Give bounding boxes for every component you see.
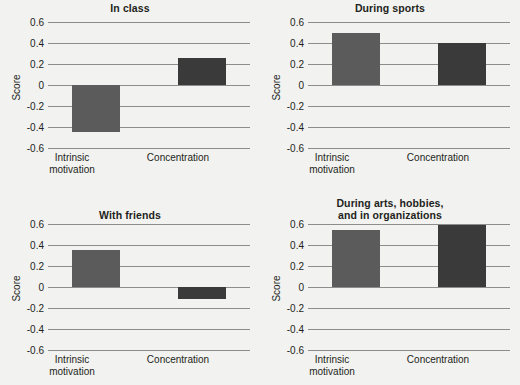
bar-concentration — [438, 225, 486, 287]
y-tick-label: -0.2 — [27, 303, 44, 314]
x-tick-label-intrinsic-motivation: Intrinsic motivation — [26, 152, 118, 176]
plot-area: 0.6 0.4 0.2 0 -0.2 -0.4 -0.6 — [308, 224, 510, 350]
gridline: -0.2 — [48, 308, 250, 309]
panel-title-line1: During arts, hobbies, — [336, 197, 443, 209]
gridline: -0.6 — [48, 350, 250, 351]
gridline: 0.4 — [48, 43, 250, 44]
gridline: -0.2 — [308, 308, 510, 309]
panel-in-class: In class Score 0.6 0.4 0.2 0 -0.2 -0.4 -… — [0, 0, 260, 195]
bar-intrinsic-motivation — [332, 230, 380, 287]
bar-concentration — [178, 58, 226, 85]
gridline: 0.6 — [308, 22, 510, 23]
plot-area: 0.6 0.4 0.2 0 -0.2 -0.4 -0.6 — [308, 22, 510, 148]
x-tick-label-intrinsic-motivation: Intrinsic motivation — [286, 152, 378, 176]
panel-during-sports: During sports Score 0.6 0.4 0.2 0 -0.2 -… — [260, 0, 520, 195]
y-tick-label: 0.4 — [30, 240, 44, 251]
chart-grid: In class Score 0.6 0.4 0.2 0 -0.2 -0.4 -… — [0, 0, 520, 385]
y-tick-label: -0.4 — [287, 324, 304, 335]
panel-with-friends: With friends Score 0.6 0.4 0.2 0 -0.2 -0… — [0, 195, 260, 385]
y-tick-label: 0.6 — [290, 17, 304, 28]
y-tick-label: 0 — [298, 282, 304, 293]
y-tick-label: 0.2 — [290, 261, 304, 272]
panel-title: During sports — [260, 3, 520, 15]
x-tick-label-concentration: Concentration — [132, 354, 224, 366]
gridline: 0.4 — [48, 245, 250, 246]
y-tick-label: -0.2 — [27, 101, 44, 112]
x-tick-label-intrinsic-motivation: Intrinsic motivation — [26, 354, 118, 378]
bar-intrinsic-motivation — [332, 33, 380, 85]
gridline: -0.4 — [308, 329, 510, 330]
x-tick-label-concentration: Concentration — [392, 354, 484, 366]
y-tick-label: -0.2 — [287, 101, 304, 112]
x-label-line2: motivation — [309, 366, 355, 377]
gridline: -0.2 — [308, 106, 510, 107]
plot-area: 0.6 0.4 0.2 0 -0.2 -0.4 -0.6 — [48, 224, 250, 350]
y-tick-label: 0 — [38, 282, 44, 293]
y-tick-label: 0.6 — [30, 17, 44, 28]
y-tick-label: 0.4 — [30, 38, 44, 49]
y-tick-label: -0.4 — [27, 324, 44, 335]
x-label-line1: Intrinsic — [55, 354, 89, 365]
bar-intrinsic-motivation — [72, 250, 120, 287]
y-tick-label: 0.6 — [30, 219, 44, 230]
y-axis-label: Score — [271, 269, 282, 309]
y-tick-label: 0.4 — [290, 240, 304, 251]
x-label-line1: Intrinsic — [315, 354, 349, 365]
bar-concentration — [438, 43, 486, 85]
gridline: -0.6 — [308, 148, 510, 149]
y-axis-label: Score — [11, 269, 22, 309]
gridline-zero: 0 — [308, 85, 510, 86]
y-tick-label: 0.4 — [290, 38, 304, 49]
y-axis-label: Score — [271, 68, 282, 108]
x-label-line2: motivation — [49, 366, 95, 377]
x-tick-label-concentration: Concentration — [132, 152, 224, 164]
gridline: 0.6 — [48, 224, 250, 225]
x-label-line2: motivation — [309, 164, 355, 175]
gridline: 0.6 — [48, 22, 250, 23]
y-tick-label: 0 — [298, 80, 304, 91]
bar-intrinsic-motivation — [72, 85, 120, 132]
y-tick-label: -0.4 — [27, 122, 44, 133]
gridline: -0.4 — [308, 127, 510, 128]
gridline: -0.6 — [48, 148, 250, 149]
gridline: -0.4 — [48, 329, 250, 330]
gridline-zero: 0 — [308, 287, 510, 288]
x-label-line1: Intrinsic — [55, 152, 89, 163]
y-tick-label: 0.2 — [290, 59, 304, 70]
panel-during-arts-hobbies-organizations: During arts, hobbies, and in organizatio… — [260, 195, 520, 385]
y-axis-label: Score — [11, 68, 22, 108]
y-tick-label: 0 — [38, 80, 44, 91]
x-label-line1: Intrinsic — [315, 152, 349, 163]
plot-area: 0.6 0.4 0.2 0 -0.2 -0.4 -0.6 — [48, 22, 250, 148]
y-tick-label: 0.6 — [290, 219, 304, 230]
x-label-line2: motivation — [49, 164, 95, 175]
y-tick-label: -0.2 — [287, 303, 304, 314]
x-tick-label-concentration: Concentration — [392, 152, 484, 164]
bar-concentration — [178, 287, 226, 299]
x-tick-label-intrinsic-motivation: Intrinsic motivation — [286, 354, 378, 378]
y-tick-label: 0.2 — [30, 261, 44, 272]
y-tick-label: 0.2 — [30, 59, 44, 70]
y-tick-label: -0.4 — [287, 122, 304, 133]
panel-title: In class — [0, 3, 260, 15]
gridline: -0.6 — [308, 350, 510, 351]
